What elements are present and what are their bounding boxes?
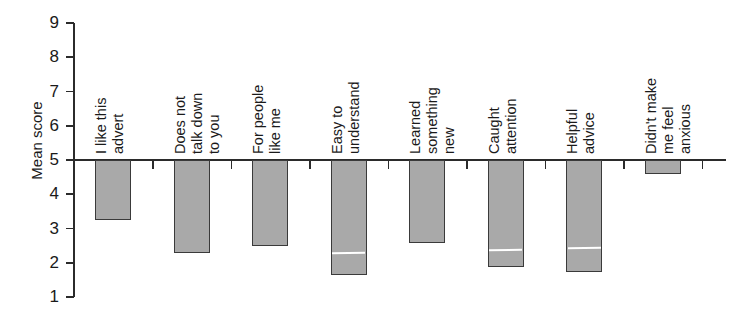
y-tick-label: 5 xyxy=(33,151,59,168)
x-tick-mark xyxy=(545,161,547,169)
category-label-line: me feel xyxy=(660,106,677,154)
x-tick-mark xyxy=(388,161,390,169)
category-label-line: new xyxy=(441,127,458,154)
category-label-line: For people xyxy=(250,85,267,154)
y-tick-label: 8 xyxy=(33,48,59,65)
category-label-line: to you xyxy=(206,115,223,155)
y-tick-label: 1 xyxy=(33,288,59,305)
bar xyxy=(409,160,445,243)
category-label-line: something xyxy=(424,87,441,154)
x-tick-mark xyxy=(309,161,311,169)
category-label-line: Does not xyxy=(172,96,189,154)
bar xyxy=(95,160,131,220)
category-label-line: I like this xyxy=(93,98,110,154)
category-label-line: talk down xyxy=(189,93,206,154)
bar xyxy=(252,160,288,246)
y-tick-label: 9 xyxy=(33,14,59,31)
category-label-line: Caught xyxy=(486,107,503,154)
category-label-line: advice xyxy=(581,112,598,154)
bar xyxy=(331,160,367,275)
y-tick-label: 7 xyxy=(33,83,59,100)
category-label-line: understand xyxy=(346,81,363,154)
category-label-line: attention xyxy=(503,98,520,154)
bar-chart: Mean score 987654321 I like thisadvertDo… xyxy=(0,0,751,320)
x-tick-mark xyxy=(152,161,154,169)
category-label-line: advert xyxy=(110,114,127,154)
category-label-line: anxious xyxy=(677,104,694,154)
category-label-line: Easy to xyxy=(329,106,346,154)
category-label-line: Learned xyxy=(407,101,424,154)
bar xyxy=(645,160,681,174)
x-tick-mark xyxy=(231,161,233,169)
category-label-line: like me xyxy=(267,108,284,154)
x-tick-mark xyxy=(466,161,468,169)
x-tick-mark xyxy=(623,161,625,169)
baseline-axis xyxy=(73,159,726,161)
bar xyxy=(566,160,602,272)
category-label-line: Helpful xyxy=(564,109,581,154)
y-tick-label: 2 xyxy=(33,254,59,271)
y-tick-label: 3 xyxy=(33,220,59,237)
y-tick-label: 6 xyxy=(33,117,59,134)
y-tick-label: 4 xyxy=(33,185,59,202)
category-label-line: Didn't make xyxy=(643,78,660,154)
x-tick-mark xyxy=(702,161,704,169)
bar xyxy=(174,160,210,253)
